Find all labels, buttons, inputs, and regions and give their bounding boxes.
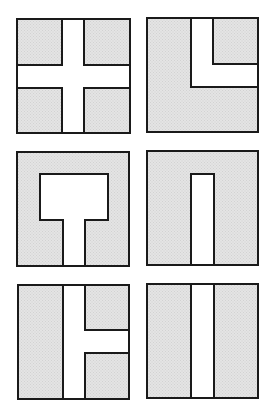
shaded-region bbox=[84, 19, 130, 65]
panel-cross bbox=[17, 19, 130, 133]
diagram-canvas bbox=[0, 0, 275, 415]
panel-group bbox=[17, 18, 258, 399]
shaded-region bbox=[17, 19, 62, 65]
shaded-region bbox=[17, 88, 62, 133]
shaded-region bbox=[214, 284, 258, 398]
panel-slot bbox=[147, 151, 258, 265]
panel-t-cavity bbox=[17, 152, 129, 266]
shaded-region bbox=[84, 88, 130, 133]
shaded-region bbox=[85, 353, 129, 399]
shaded-region bbox=[18, 285, 63, 399]
shaded-region bbox=[213, 18, 258, 64]
panel-split bbox=[147, 284, 258, 398]
panel-t-branch bbox=[18, 285, 129, 399]
panel-l-channel bbox=[147, 18, 258, 132]
shaded-region bbox=[85, 285, 129, 330]
shaded-region bbox=[147, 284, 191, 398]
